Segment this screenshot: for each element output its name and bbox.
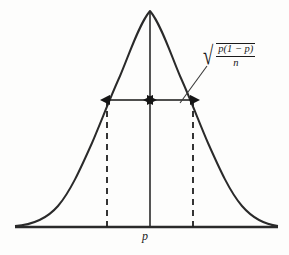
radical-icon: √ <box>203 43 213 69</box>
axis-center-label: p <box>142 230 148 242</box>
normal-curve-figure: p √ p(1 − p) n <box>0 0 289 255</box>
figure-canvas <box>0 0 289 255</box>
formula-numerator: p(1 − p) <box>216 44 255 56</box>
standard-error-formula: √ p(1 − p) n <box>203 41 255 68</box>
formula-denominator: n <box>216 56 255 69</box>
formula-fraction: p(1 − p) n <box>216 43 255 68</box>
